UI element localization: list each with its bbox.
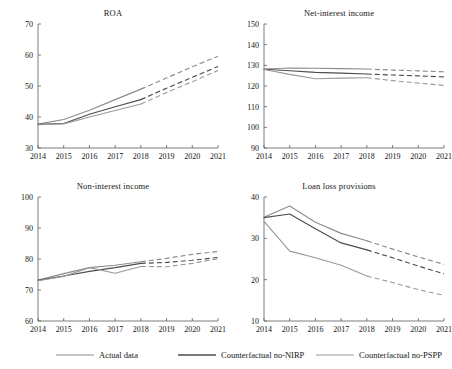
x-axis-tick-label: 2017 (107, 325, 123, 334)
x-axis-tick-label: 2014 (30, 152, 46, 161)
x-axis-tick-label: 2014 (30, 325, 46, 334)
series-line-solid-2 (264, 221, 367, 276)
series-line-solid-1 (264, 214, 367, 250)
series-line-forecast-1 (141, 66, 218, 99)
y-axis-tick-label: 100 (247, 123, 259, 132)
legend-label-2: Counterfactual no-PSPP (359, 350, 442, 360)
x-axis-tick-label: 2015 (282, 152, 298, 161)
y-axis-tick-label: 100 (21, 193, 33, 202)
legend-label-0: Actual data (99, 350, 138, 360)
x-axis-tick-label: 2021 (436, 152, 452, 161)
series-line-forecast-0 (367, 241, 444, 265)
series-line-solid-1 (38, 100, 141, 125)
x-axis-tick-label: 2020 (410, 325, 426, 334)
x-axis-tick-label: 2020 (410, 152, 426, 161)
y-axis-tick-label: 150 (247, 20, 259, 29)
plot-area-loan-loss-provisions: 1020304020142015201620172018201920202021 (226, 175, 452, 353)
x-axis-tick-label: 2018 (133, 325, 149, 334)
x-axis-tick-label: 2020 (184, 325, 200, 334)
series-line-solid-0 (264, 206, 367, 241)
series-line-forecast-0 (367, 69, 444, 72)
plot-area-net-interest-income: 9010011012013014015020142015201620172018… (226, 2, 452, 180)
plot-area-roa: 3040506070201420152016201720182019202020… (0, 2, 226, 180)
y-axis-tick-label: 60 (25, 51, 33, 60)
x-axis-tick-label: 2017 (333, 325, 349, 334)
x-axis-tick-label: 2018 (133, 152, 149, 161)
series-line-forecast-2 (141, 71, 218, 104)
x-axis-tick-label: 2015 (282, 325, 298, 334)
y-axis-tick-label: 130 (247, 61, 259, 70)
x-axis-tick-label: 2016 (81, 325, 97, 334)
x-axis-tick-label: 2016 (307, 152, 323, 161)
x-axis-tick-label: 2019 (385, 325, 401, 334)
x-axis-tick-label: 2018 (359, 152, 375, 161)
y-axis-tick-label: 70 (25, 286, 33, 295)
series-line-solid-0 (264, 68, 367, 69)
x-axis-tick-label: 2021 (210, 152, 226, 161)
series-line-solid-2 (264, 69, 367, 78)
x-axis-tick-label: 2014 (256, 152, 272, 161)
series-line-solid-1 (264, 69, 367, 74)
y-axis-tick-label: 50 (25, 82, 33, 91)
x-axis-tick-label: 2018 (359, 325, 375, 334)
series-line-solid-0 (38, 89, 141, 124)
figure-legend: Actual dataCounterfactual no-NIRPCounter… (0, 344, 452, 366)
series-line-forecast-2 (367, 78, 444, 86)
x-axis-tick-label: 2014 (256, 325, 272, 334)
figure-four-panel-line-charts: ROA 304050607020142015201620172018201920… (0, 0, 452, 369)
y-axis-tick-label: 70 (25, 20, 33, 29)
legend-svg: Actual dataCounterfactual no-NIRPCounter… (0, 344, 452, 366)
x-axis-tick-label: 2016 (81, 152, 97, 161)
y-axis-tick-label: 20 (251, 276, 259, 285)
series-line-forecast-1 (367, 74, 444, 77)
x-axis-tick-label: 2019 (385, 152, 401, 161)
x-axis-tick-label: 2016 (307, 325, 323, 334)
legend-label-1: Counterfactual no-NIRP (221, 350, 305, 360)
chart-panel-roa: ROA 304050607020142015201620172018201920… (0, 2, 226, 180)
chart-panel-non-interest-income: Non-interest income 60708090100201420152… (0, 175, 226, 353)
y-axis-tick-label: 80 (25, 255, 33, 264)
series-line-forecast-0 (141, 56, 218, 89)
chart-panel-loan-loss-provisions: Loan loss provisions 1020304020142015201… (226, 175, 452, 353)
y-axis-tick-label: 110 (247, 103, 259, 112)
x-axis-tick-label: 2019 (159, 325, 175, 334)
x-axis-tick-label: 2017 (107, 152, 123, 161)
x-axis-tick-label: 2021 (210, 325, 226, 334)
chart-panel-net-interest-income: Net-interest income 90100110120130140150… (226, 2, 452, 180)
series-line-solid-2 (38, 266, 141, 280)
y-axis-tick-label: 40 (25, 113, 33, 122)
plot-area-non-interest-income: 6070809010020142015201620172018201920202… (0, 175, 226, 353)
series-line-forecast-2 (367, 276, 444, 295)
x-axis-tick-label: 2015 (56, 152, 72, 161)
x-axis-tick-label: 2020 (184, 152, 200, 161)
y-axis-tick-label: 90 (25, 224, 33, 233)
x-axis-tick-label: 2021 (436, 325, 452, 334)
y-axis-tick-label: 120 (247, 82, 259, 91)
x-axis-tick-label: 2015 (56, 325, 72, 334)
y-axis-tick-label: 40 (251, 193, 259, 202)
y-axis-tick-label: 140 (247, 41, 259, 50)
y-axis-tick-label: 30 (251, 234, 259, 243)
x-axis-tick-label: 2017 (333, 152, 349, 161)
x-axis-tick-label: 2019 (159, 152, 175, 161)
